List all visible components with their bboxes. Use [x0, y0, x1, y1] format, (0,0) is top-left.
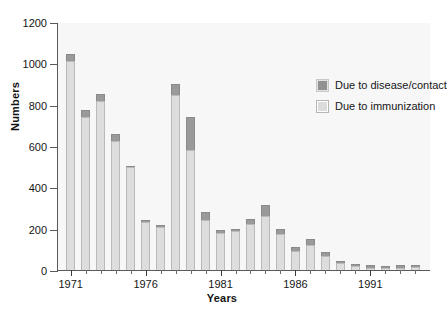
bar-1974	[111, 134, 120, 270]
x-tick	[280, 270, 281, 274]
bar-segment-disease-contact	[261, 205, 270, 216]
x-tick	[191, 270, 192, 274]
y-tick-label: 400	[29, 182, 47, 194]
y-tick	[50, 106, 58, 107]
bar-segment-disease-contact	[186, 117, 195, 150]
x-tick	[206, 270, 207, 274]
bar-segment-immunization	[126, 167, 135, 270]
bar-segment-immunization	[231, 231, 240, 270]
chart-legend: Due to disease/contactDue to immunizatio…	[317, 79, 447, 112]
y-tick-label: 600	[29, 141, 47, 153]
bar-1986	[291, 247, 300, 270]
bar-segment-immunization	[246, 224, 255, 271]
x-tick	[310, 270, 311, 274]
y-tick-label: 0	[41, 265, 47, 277]
x-tick-label: 1986	[283, 278, 307, 290]
x-tick	[370, 270, 371, 276]
x-tick	[101, 270, 102, 274]
bar-1988	[321, 252, 330, 270]
bar-1981	[216, 230, 225, 270]
x-tick	[236, 270, 237, 274]
y-tick-label: 1200	[23, 17, 47, 29]
x-tick	[340, 270, 341, 274]
bar-segment-disease-contact	[171, 84, 180, 95]
bar-1973	[96, 94, 105, 270]
bar-segment-immunization	[141, 222, 150, 270]
y-tick	[50, 147, 58, 148]
y-axis-title: Numbers	[9, 82, 21, 131]
bar-1985	[276, 229, 285, 270]
legend-swatch-icon	[317, 101, 328, 112]
bar-segment-immunization	[171, 95, 180, 270]
bar-segment-immunization	[336, 263, 345, 270]
x-tick	[325, 270, 326, 274]
legend-label: Due to immunization	[335, 100, 435, 112]
bar-segment-immunization	[156, 227, 165, 270]
y-tick-label: 800	[29, 100, 47, 112]
x-tick	[86, 270, 87, 274]
x-tick	[161, 270, 162, 274]
bar-segment-immunization	[216, 233, 225, 270]
bar-1989	[336, 261, 345, 270]
legend-label: Due to disease/contact	[335, 79, 447, 91]
bar-1982	[231, 229, 240, 270]
bar-1983	[246, 219, 255, 270]
x-tick	[295, 270, 296, 276]
x-tick	[146, 270, 147, 276]
x-tick	[415, 270, 416, 274]
bar-segment-immunization	[291, 251, 300, 270]
bar-1978	[171, 84, 180, 270]
plot-area: 020040060080010001200 197119761981198619…	[57, 23, 430, 271]
x-tick-label: 1991	[358, 278, 382, 290]
bar-segment-immunization	[276, 234, 285, 270]
y-tick-label: 200	[29, 224, 47, 236]
x-tick	[385, 270, 386, 274]
legend-item: Due to immunization	[317, 100, 447, 112]
bar-1975	[126, 166, 135, 270]
y-tick	[50, 230, 58, 231]
y-tick	[50, 23, 58, 24]
bar-segment-immunization	[201, 220, 210, 270]
x-tick-label: 1971	[58, 278, 82, 290]
legend-item: Due to disease/contact	[317, 79, 447, 91]
x-tick	[131, 270, 132, 274]
bar-segment-disease-contact	[201, 212, 210, 220]
x-tick	[265, 270, 266, 274]
x-tick	[221, 270, 222, 276]
x-axis-title: Years	[0, 292, 444, 304]
y-tick-label: 1000	[23, 58, 47, 70]
bar-1984	[261, 205, 270, 270]
x-tick	[355, 270, 356, 274]
x-tick	[116, 270, 117, 274]
bar-1977	[156, 225, 165, 270]
bar-segment-disease-contact	[111, 134, 120, 141]
bar-1971	[66, 54, 75, 270]
y-tick	[50, 271, 58, 272]
y-tick	[50, 188, 58, 189]
legend-swatch-icon	[317, 80, 328, 91]
x-tick-label: 1981	[208, 278, 232, 290]
bar-segment-immunization	[321, 256, 330, 270]
bar-segment-immunization	[96, 101, 105, 270]
bar-segment-immunization	[186, 150, 195, 270]
bar-segment-immunization	[66, 61, 75, 270]
bar-segment-immunization	[81, 117, 90, 270]
x-tick	[176, 270, 177, 274]
bar-segment-immunization	[261, 216, 270, 270]
bar-1987	[306, 239, 315, 270]
bar-1979	[186, 117, 195, 270]
bar-segment-immunization	[111, 141, 120, 270]
bar-1980	[201, 212, 210, 270]
bar-group	[58, 23, 430, 270]
bar-segment-disease-contact	[66, 54, 75, 61]
bar-segment-immunization	[306, 245, 315, 270]
x-tick	[71, 270, 72, 276]
x-tick	[250, 270, 251, 274]
bar-1976	[141, 220, 150, 270]
bar-segment-disease-contact	[81, 110, 90, 117]
x-tick	[400, 270, 401, 274]
y-tick	[50, 64, 58, 65]
x-tick-label: 1976	[133, 278, 157, 290]
bar-1972	[81, 110, 90, 270]
